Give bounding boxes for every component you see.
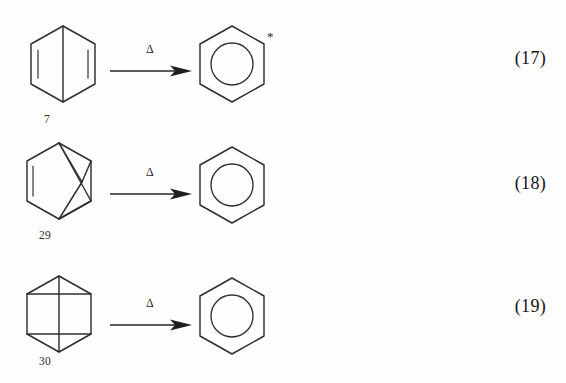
delta-heat-symbol: Δ	[146, 166, 154, 178]
compound-label-29: 29	[39, 229, 51, 241]
compound-label-7: 7	[44, 113, 50, 125]
reaction-arrow-17: Δ	[108, 46, 194, 86]
reaction-scheme-page: Δ * 7 (17)	[0, 0, 566, 383]
compound-label-30: 30	[39, 355, 51, 367]
structure-benzene-17: *	[198, 22, 278, 106]
reaction-arrow-19: Δ	[108, 300, 194, 340]
structure-benzene-18	[198, 143, 278, 227]
structure-dewar-benzene	[26, 22, 100, 106]
delta-heat-symbol: Δ	[146, 297, 154, 309]
asterisk-label: *	[267, 30, 274, 43]
structure-prismane	[22, 272, 96, 356]
equation-number-18: (18)	[515, 173, 546, 194]
structure-benzvalene	[22, 139, 96, 223]
equation-row-17: Δ * 7 (17)	[0, 8, 566, 133]
equation-number-17: (17)	[515, 48, 546, 69]
equation-row-18: Δ 29 (18)	[0, 133, 566, 258]
structure-benzene-19	[198, 274, 278, 358]
reaction-arrow-18: Δ	[108, 169, 194, 209]
delta-heat-symbol: Δ	[146, 43, 154, 55]
equation-row-19: Δ 30 (19)	[0, 260, 566, 383]
equation-number-19: (19)	[515, 296, 546, 317]
